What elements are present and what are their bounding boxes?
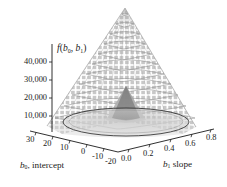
- y-axis-title: b1 slope: [163, 160, 192, 169]
- z-tick-label-10000: 10,000: [4, 112, 47, 120]
- x-tick-label-30: 30: [26, 136, 34, 144]
- x-tick-label-minus10: -10: [92, 153, 103, 161]
- x-tick-label-20: 20: [43, 140, 51, 148]
- y-tick-label-0.2: 0.2: [143, 150, 153, 158]
- x-tick-label-10: 10: [60, 144, 68, 152]
- y-tick-label-0.6: 0.6: [185, 140, 195, 148]
- x-axis-title: b0, intercept: [20, 161, 64, 170]
- z-tick-label-20000: 20,000: [4, 94, 47, 102]
- y-tick-label-0.4: 0.4: [164, 145, 174, 153]
- z-tick-label-30000: 30,000: [4, 76, 47, 84]
- z-tick-label-40000: 40,000: [4, 58, 47, 66]
- y-tick-label-0.8: 0.8: [206, 134, 216, 142]
- surface-plot-figure: f(b0, b1) 40,000 30,000 20,000 10,000 30…: [0, 0, 227, 187]
- y-tick-label-0.0: 0.0: [121, 155, 131, 163]
- z-axis-title: f(b0, b1): [57, 43, 86, 53]
- surface-mesh: [47, 8, 196, 138]
- x-tick-label-minus20: -20: [105, 158, 116, 166]
- x-tick-label-0: 0: [81, 148, 85, 156]
